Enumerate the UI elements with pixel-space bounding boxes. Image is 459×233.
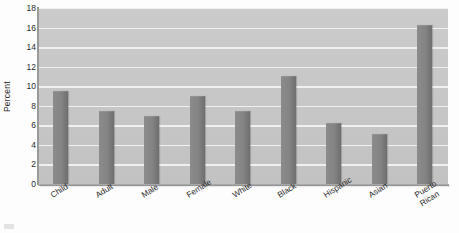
bar <box>281 76 296 184</box>
y-axis-tick-label: 2 <box>16 160 36 168</box>
bar <box>235 111 250 184</box>
bar-chart: Percent 181614121086420 ChildAdultMaleFe… <box>0 0 459 233</box>
x-axis-tick-label: Male <box>140 183 160 200</box>
y-axis-tick-label: 16 <box>16 24 36 32</box>
y-axis-tick-label: 14 <box>16 43 36 51</box>
bar <box>372 134 387 184</box>
page-corner-mark <box>4 224 14 229</box>
plot-area <box>38 8 448 184</box>
bar <box>99 111 114 184</box>
y-axis-tick-label: 4 <box>16 141 36 149</box>
bar <box>326 123 341 184</box>
gridline <box>38 67 448 68</box>
y-axis-tick-label: 12 <box>16 63 36 71</box>
bar <box>190 96 205 184</box>
gridline <box>38 28 448 29</box>
gridline <box>38 47 448 48</box>
bar <box>144 116 159 184</box>
y-axis-title: Percent <box>0 62 14 132</box>
bar <box>53 91 68 184</box>
y-axis-tick-label: 10 <box>16 82 36 90</box>
y-axis-tick-label: 6 <box>16 121 36 129</box>
gridline <box>38 86 448 87</box>
gridline <box>38 8 448 9</box>
y-axis-tick-label: 8 <box>16 102 36 110</box>
x-axis-tick-labels: ChildAdultMaleFemaleWhiteBlackHispanicAs… <box>0 186 459 233</box>
bar <box>417 25 432 184</box>
y-axis-tick-label: 18 <box>16 4 36 12</box>
gridline <box>38 106 448 107</box>
y-axis-line <box>37 7 39 185</box>
